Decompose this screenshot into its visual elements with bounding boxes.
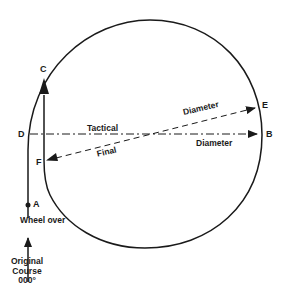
point-d-label: D <box>18 130 25 139</box>
point-b-label: B <box>266 130 273 139</box>
final-arrow-f-icon <box>46 153 58 161</box>
tactical-label: Tactical <box>87 124 118 133</box>
original-course-heading: 000° <box>10 276 44 285</box>
point-a-label: A <box>33 200 40 209</box>
point-f-label: F <box>36 158 42 167</box>
wheel-over-label: Wheel over <box>20 216 65 225</box>
original-course-line2: Course <box>10 267 44 276</box>
advance-arrow-icon <box>39 78 49 94</box>
turning-circle-diagram <box>0 0 284 297</box>
original-course-line1: Original <box>10 257 44 266</box>
point-c-label: C <box>40 65 47 74</box>
original-course-label: Original Course 000° <box>10 257 44 285</box>
point-e-label: E <box>262 101 268 110</box>
wheel-over-point <box>26 203 31 208</box>
final-diameter-line <box>56 108 255 158</box>
tactical-diameter-label: Diameter <box>196 139 232 148</box>
